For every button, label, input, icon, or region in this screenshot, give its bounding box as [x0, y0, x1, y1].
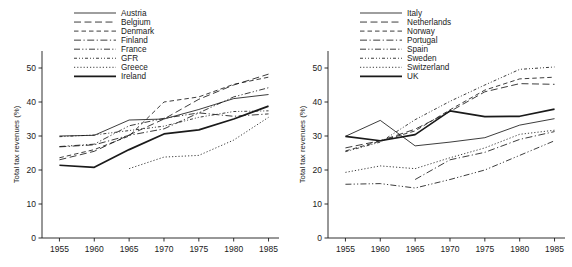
series-line-gfr	[59, 111, 268, 137]
legend-item-spain[interactable]: Spain	[360, 45, 428, 54]
legend-label: Belgium	[121, 18, 151, 27]
x-tick-label: 1975	[189, 244, 208, 254]
legend-item-denmark[interactable]: Denmark	[74, 27, 155, 36]
series-line-austria	[59, 95, 268, 136]
chart-panel-left: 010203040501955196019651970197519801985T…	[0, 0, 286, 267]
y-tick-label: 30	[313, 131, 323, 141]
legend-item-netherlands[interactable]: Netherlands	[360, 18, 451, 27]
y-tick-label: 10	[313, 199, 323, 209]
legend-label: Switzerland	[407, 63, 450, 72]
y-tick-label: 0	[317, 233, 322, 243]
y-tick-label: 10	[27, 199, 37, 209]
legend-item-uk[interactable]: UK	[360, 72, 419, 81]
x-tick-label: 1970	[441, 244, 460, 254]
series-line-switzerland	[345, 130, 554, 172]
legend-item-belgium[interactable]: Belgium	[74, 18, 151, 27]
legend-item-norway[interactable]: Norway	[360, 27, 436, 36]
chart-panel-right: 010203040501955196019651970197519801985T…	[286, 0, 572, 267]
y-axis-ticks: 01020304050	[27, 63, 42, 243]
y-tick-label: 20	[27, 165, 37, 175]
y-tick-label: 40	[27, 97, 37, 107]
y-tick-label: 50	[313, 63, 323, 73]
x-tick-label: 1965	[406, 244, 425, 254]
legend-label: Sweden	[407, 54, 437, 63]
legend-label: Italy	[407, 9, 423, 18]
legend-label: France	[121, 45, 147, 54]
legend-label: Spain	[407, 45, 428, 54]
y-axis-ticks: 01020304050	[313, 63, 328, 243]
y-tick-label: 0	[31, 233, 36, 243]
legend-label: Portugal	[407, 36, 438, 45]
legend-item-finland[interactable]: Finland	[74, 36, 148, 45]
legend: ItalyNetherlandsNorwayPortugalSpainSwede…	[360, 9, 451, 81]
legend-item-greece[interactable]: Greece	[74, 63, 148, 72]
x-tick-label: 1975	[475, 244, 494, 254]
y-tick-label: 20	[313, 165, 323, 175]
axes	[328, 51, 565, 238]
legend-label: Norway	[407, 27, 436, 36]
legend-item-ireland[interactable]: Ireland	[74, 72, 146, 81]
legend-label: Denmark	[121, 27, 155, 36]
y-tick-label: 30	[27, 131, 37, 141]
legend-label: Ireland	[121, 72, 146, 81]
x-tick-label: 1970	[155, 244, 174, 254]
legend-label: Netherlands	[407, 18, 451, 27]
legend-label: UK	[407, 72, 419, 81]
y-axis-title: Total tax revenues (%)	[12, 105, 21, 183]
legend-label: Austria	[121, 9, 147, 18]
legend-item-italy[interactable]: Italy	[360, 9, 423, 18]
legend-item-austria[interactable]: Austria	[74, 9, 147, 18]
x-tick-label: 1955	[336, 244, 355, 254]
x-axis-ticks: 1955196019651970197519801985	[336, 238, 564, 254]
x-tick-label: 1985	[545, 244, 564, 254]
y-tick-label: 50	[27, 63, 37, 73]
series-line-spain	[345, 141, 554, 188]
legend-label: GFR	[121, 54, 138, 63]
legend-label: Greece	[121, 63, 148, 72]
legend-label: Finland	[121, 36, 148, 45]
legend-item-france[interactable]: France	[74, 45, 147, 54]
legend-item-switzerland[interactable]: Switzerland	[360, 63, 450, 72]
y-axis-title: Total tax revenues (%)	[298, 105, 307, 183]
axes	[42, 51, 279, 238]
x-tick-label: 1960	[371, 244, 390, 254]
legend-item-gfr[interactable]: GFR	[74, 54, 138, 63]
series-line-portugal	[415, 132, 554, 180]
series-line-ireland	[59, 106, 268, 167]
x-tick-label: 1980	[224, 244, 243, 254]
y-tick-label: 40	[313, 97, 323, 107]
series-line-uk	[345, 109, 554, 141]
x-tick-label: 1960	[85, 244, 104, 254]
x-axis-ticks: 1955196019651970197519801985	[50, 238, 278, 254]
x-tick-label: 1955	[50, 244, 69, 254]
series-group	[345, 67, 554, 188]
legend-item-sweden[interactable]: Sweden	[360, 54, 437, 63]
series-group	[59, 74, 268, 169]
series-line-sweden	[345, 67, 554, 152]
legend: AustriaBelgiumDenmarkFinlandFranceGFRGre…	[74, 9, 155, 81]
tax-revenue-figure: 010203040501955196019651970197519801985T…	[0, 0, 572, 267]
x-tick-label: 1980	[510, 244, 529, 254]
legend-item-portugal[interactable]: Portugal	[360, 36, 438, 45]
x-tick-label: 1985	[259, 244, 278, 254]
x-tick-label: 1965	[120, 244, 139, 254]
